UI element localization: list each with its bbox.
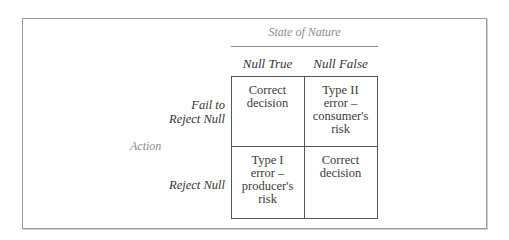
cell-text-line: risk xyxy=(231,193,304,206)
column-header-null-true: Null True xyxy=(231,56,304,72)
column-axis-rule xyxy=(231,46,378,47)
row-axis-label: Action xyxy=(130,139,161,154)
row-label-line: Reject Null xyxy=(169,112,225,126)
cell-text-line: risk xyxy=(304,123,377,136)
column-axis-label: State of Nature xyxy=(231,25,378,40)
row-label-fail-to-reject-null: Fail to Reject Null xyxy=(169,98,225,126)
grid-horizontal-divider xyxy=(231,146,378,147)
row-label-reject-null: Reject Null xyxy=(169,178,225,192)
cell-text-line: decision xyxy=(231,97,304,110)
cell-fail-to-reject-null-false: Type II error – consumer's risk xyxy=(304,84,377,136)
row-label-line: Fail to xyxy=(169,98,225,112)
row-label-line: Reject Null xyxy=(169,178,225,192)
cell-reject-null-true: Type I error – producer's risk xyxy=(231,154,304,206)
cell-reject-null-false: Correct decision xyxy=(304,154,377,180)
cell-text-line: decision xyxy=(304,167,377,180)
cell-fail-to-reject-null-true: Correct decision xyxy=(231,84,304,110)
column-header-null-false: Null False xyxy=(304,56,377,72)
